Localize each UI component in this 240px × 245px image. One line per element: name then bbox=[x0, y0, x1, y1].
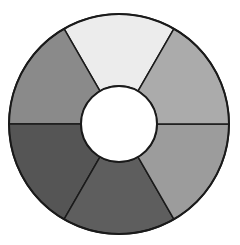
donut-center-hole bbox=[81, 86, 157, 162]
donut-chart bbox=[0, 0, 240, 245]
donut-chart-svg bbox=[0, 0, 240, 245]
